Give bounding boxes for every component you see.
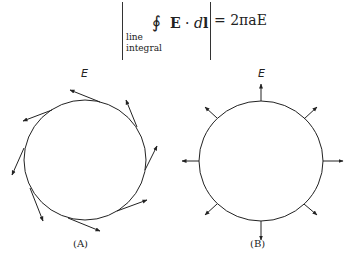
tangent-arrow — [23, 110, 52, 121]
diagram-canvas — [0, 0, 345, 260]
tangent-arrow — [30, 188, 43, 221]
tangent-arrow — [126, 100, 137, 127]
panel-a-diagram — [12, 90, 157, 231]
tangent-arrow — [12, 148, 24, 175]
radial-arrow — [304, 107, 317, 119]
radial-arrow — [205, 107, 217, 118]
panel-a-caption: (A) — [73, 238, 88, 249]
tangent-arrow — [117, 200, 147, 211]
radial-arrow — [304, 204, 317, 215]
panel-b-caption: (B) — [250, 238, 265, 249]
tangent-arrow — [145, 146, 157, 170]
panel-a-field-label: E — [81, 67, 88, 80]
radial-arrow — [205, 204, 217, 215]
panel-b-diagram — [182, 84, 343, 240]
panel-b-field-label: E — [258, 67, 265, 80]
circle-a — [24, 100, 146, 220]
